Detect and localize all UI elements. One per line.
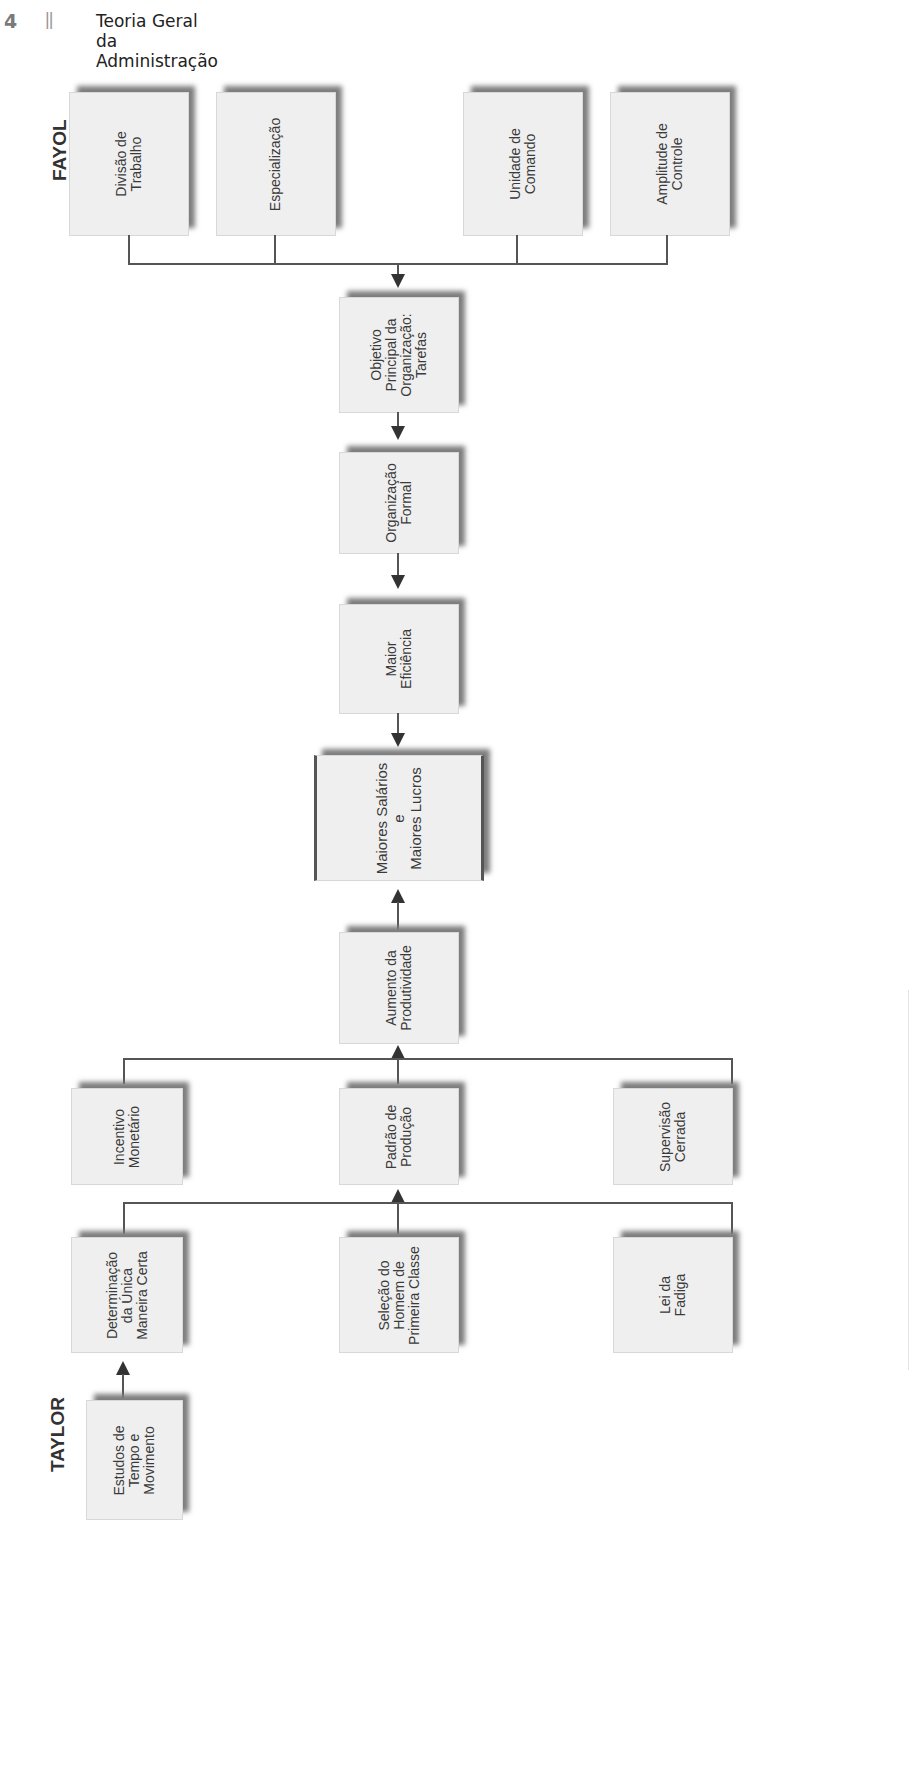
connector-line <box>123 1202 733 1204</box>
box-label: Objetivo Principal da Organização: Taref… <box>369 313 429 396</box>
box-label: Aumento da Produtividade <box>384 945 414 1031</box>
box-organizacao-formal: Organização Formal <box>339 452 459 554</box>
box-determinacao-unica-maneira: Determinação da Única Maneira Certa <box>71 1237 183 1353</box>
arrow-shaft <box>397 553 399 577</box>
box-aumento-produtividade: Aumento da Produtividade <box>339 932 459 1044</box>
page-number: 4 <box>4 10 17 32</box>
connector-line <box>731 1058 733 1084</box>
connector-line <box>274 235 276 264</box>
box-label: Unidade de Comando <box>508 128 538 200</box>
arrow-down-icon <box>391 426 405 440</box>
box-maiores-salarios-lucros: Maiores Salários e Maiores Lucros <box>314 755 484 881</box>
box-unidade-comando: Unidade de Comando <box>463 92 583 236</box>
connector-line <box>666 235 668 264</box>
box-padrao-producao: Padrão de Produção <box>339 1088 459 1185</box>
arrow-shaft <box>122 1374 124 1398</box>
box-label: Padrão de Produção <box>384 1104 414 1169</box>
box-label: Estudos de Tempo e Movimento <box>112 1425 157 1495</box>
connector-line <box>123 1058 125 1084</box>
box-label: Maiores Salários e Maiores Lucros <box>374 762 425 874</box>
arrow-shaft <box>397 713 399 735</box>
box-label: Lei da Fadiga <box>658 1274 688 1317</box>
box-label: Determinação da Única Maneira Certa <box>104 1251 149 1340</box>
connector-line <box>397 1058 399 1084</box>
box-supervisao-cerrada: Supervisão Cerrada <box>613 1088 733 1185</box>
box-label: Supervisão Cerrada <box>658 1101 688 1171</box>
arrow-up-icon <box>391 889 405 903</box>
box-label: Incentivo Monetário <box>112 1105 142 1167</box>
arrow-up-icon <box>391 1045 405 1059</box>
box-especializacao: Especialização <box>216 92 336 236</box>
box-label: Organização Formal <box>384 463 414 542</box>
box-label: Divisão de Trabalho <box>114 131 144 196</box>
connector-line <box>397 1202 399 1234</box>
fayol-label: FAYOL <box>49 121 71 181</box>
arrow-up-icon <box>391 1189 405 1203</box>
connector-line <box>128 235 130 264</box>
box-divisao-trabalho: Divisão de Trabalho <box>69 92 189 236</box>
box-amplitude-controle: Amplitude de Controle <box>610 92 730 236</box>
box-maior-eficiencia: Maior Eficiência <box>339 604 459 714</box>
page-margin-line <box>908 990 909 1370</box>
arrow-down-icon <box>391 274 405 288</box>
arrow-down-icon <box>391 733 405 747</box>
box-label: Amplitude de Controle <box>655 123 685 205</box>
page-title: Teoria Geral da Administração <box>96 11 218 71</box>
header-separator: || <box>45 9 52 30</box>
arrow-up-icon <box>116 1361 130 1375</box>
box-incentivo-monetario: Incentivo Monetário <box>71 1088 183 1185</box>
arrow-shaft <box>397 902 399 930</box>
connector-line <box>123 1058 733 1060</box>
box-objetivo-principal: Objetivo Principal da Organização: Taref… <box>339 297 459 413</box>
box-label: Maior Eficiência <box>384 629 414 689</box>
box-label: Seleção do Homem de Primeira Classe <box>377 1246 422 1345</box>
box-selecao-homem-primeira-classe: Seleção do Homem de Primeira Classe <box>339 1237 459 1353</box>
connector-line <box>123 1202 125 1234</box>
box-lei-fadiga: Lei da Fadiga <box>613 1237 733 1353</box>
connector-line <box>516 235 518 264</box>
arrow-down-icon <box>391 575 405 589</box>
taylor-label: TAYLOR <box>47 1400 69 1472</box>
box-label: Especialização <box>268 117 283 210</box>
box-estudos-tempo-movimento: Estudos de Tempo e Movimento <box>86 1400 183 1520</box>
connector-line <box>731 1202 733 1234</box>
